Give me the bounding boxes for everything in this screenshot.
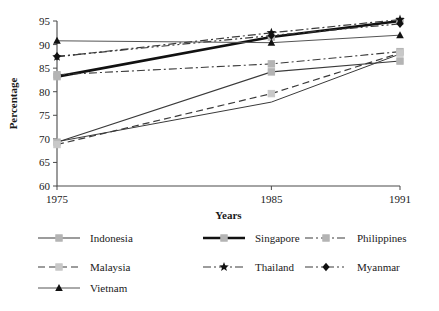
data-point-marker — [56, 235, 62, 241]
data-point-marker — [268, 69, 274, 75]
legend-entry-singapore[interactable]: Singapore — [203, 232, 300, 244]
data-point-marker — [56, 264, 62, 270]
y-tick-label: 65 — [39, 156, 51, 168]
legend-label-philippines: Philippines — [357, 232, 407, 244]
legend-label-indonesia: Indonesia — [90, 232, 133, 244]
series-malaysia — [54, 50, 403, 148]
legend-entry-vietnam[interactable]: Vietnam — [38, 282, 128, 294]
series-vietnam — [53, 31, 404, 46]
legend-label-malaysia: Malaysia — [90, 261, 130, 273]
series-singapore — [54, 18, 403, 80]
legend-entry-malaysia[interactable]: Malaysia — [38, 261, 130, 273]
data-point-marker — [54, 141, 60, 147]
data-point-marker — [397, 50, 403, 56]
legend-label-myanmar: Myanmar — [357, 261, 400, 273]
series-path — [57, 52, 400, 75]
series-myanmar — [53, 20, 403, 61]
series-path — [57, 21, 400, 77]
line-chart: 6065707580859095197519851991YearsPercent… — [0, 0, 439, 311]
series-path — [57, 35, 400, 43]
data-point-marker — [54, 72, 60, 78]
data-point-marker — [53, 37, 61, 44]
legend-entry-philippines[interactable]: Philippines — [305, 232, 407, 244]
data-point-marker — [396, 31, 404, 38]
data-point-marker — [397, 58, 403, 64]
legend-entry-indonesia[interactable]: Indonesia — [38, 232, 133, 244]
x-axis-title: Years — [215, 209, 242, 221]
data-point-marker — [268, 90, 274, 96]
y-tick-label: 60 — [39, 180, 51, 192]
legend-entry-myanmar[interactable]: Myanmar — [305, 261, 400, 273]
y-tick-label: 95 — [39, 15, 51, 27]
data-point-marker — [268, 61, 274, 67]
y-tick-label: 70 — [39, 133, 51, 145]
data-point-marker — [53, 52, 60, 60]
series-philippines — [54, 48, 403, 78]
legend-label-thailand: Thailand — [255, 261, 295, 273]
y-tick-label: 90 — [39, 39, 51, 51]
y-tick-label: 85 — [39, 62, 51, 74]
legend-entry-thailand[interactable]: Thailand — [203, 261, 295, 273]
x-tick-label: 1975 — [46, 193, 69, 205]
x-tick-label: 1985 — [260, 193, 283, 205]
data-point-marker — [322, 263, 329, 271]
y-axis-title: Percentage — [7, 78, 19, 130]
data-point-marker — [219, 262, 229, 271]
legend-label-singapore: Singapore — [255, 232, 300, 244]
y-tick-label: 75 — [39, 109, 51, 121]
y-tick-label: 80 — [39, 86, 51, 98]
chart-canvas: 6065707580859095197519851991YearsPercent… — [0, 0, 439, 311]
legend-label-vietnam: Vietnam — [90, 282, 128, 294]
data-point-marker — [221, 235, 227, 241]
data-point-marker — [323, 235, 329, 241]
x-tick-label: 1991 — [389, 193, 411, 205]
